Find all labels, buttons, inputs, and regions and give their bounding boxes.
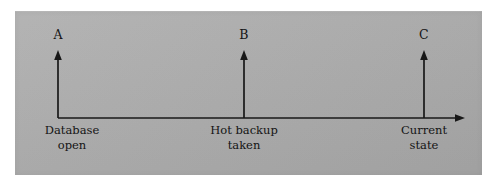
time-axis-arrowhead — [455, 114, 465, 122]
event-b-arrowhead — [240, 50, 248, 60]
event-marker-c — [420, 50, 428, 118]
time-axis — [58, 114, 465, 122]
event-marker-a — [54, 50, 62, 118]
event-a-caption-line-2: open — [45, 138, 99, 153]
event-c-marker-label: C — [419, 27, 429, 42]
event-c-caption-line-2: state — [401, 138, 447, 153]
event-c-caption-line-1: Current — [401, 123, 447, 138]
event-c-arrowhead — [420, 50, 428, 60]
event-b-marker-label: B — [239, 27, 248, 42]
event-b-caption-line-2: taken — [210, 138, 278, 153]
event-a-caption-line-1: Database — [45, 123, 99, 138]
event-marker-b — [240, 50, 248, 118]
figure-root: A B C Database open Hot backup taken Cur… — [0, 0, 496, 189]
event-a-arrowhead — [54, 50, 62, 60]
event-c-caption: Current state — [401, 123, 447, 152]
event-a-caption: Database open — [45, 123, 99, 152]
event-a-marker-label: A — [53, 27, 62, 42]
event-b-caption-line-1: Hot backup — [210, 123, 278, 138]
event-b-caption: Hot backup taken — [210, 123, 278, 152]
